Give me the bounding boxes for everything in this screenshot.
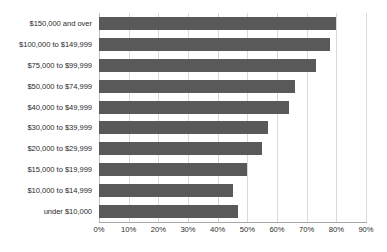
category-label: $40,000 to $49,999 xyxy=(27,103,92,112)
bar-row xyxy=(99,34,366,55)
value-tick-label: 0% xyxy=(94,224,105,235)
category-label: $10,000 to $14,999 xyxy=(27,186,92,195)
bar-row xyxy=(99,13,366,34)
bar xyxy=(99,101,289,114)
bar-row xyxy=(99,55,366,76)
bars-layer xyxy=(99,13,366,222)
category-label-cell: $75,000 to $99,999 xyxy=(0,55,96,76)
bar-row xyxy=(99,180,366,201)
bar-row xyxy=(99,76,366,97)
category-label: $50,000 to $74,999 xyxy=(27,82,92,91)
value-tick-label: 40% xyxy=(210,224,225,235)
bar xyxy=(99,121,268,134)
category-label-cell: $50,000 to $74,999 xyxy=(0,76,96,97)
value-tick-label: 30% xyxy=(180,224,195,235)
bar xyxy=(99,38,330,51)
bar xyxy=(99,163,247,176)
value-axis: 0%10%20%30%40%50%60%70%80%90% xyxy=(99,224,366,238)
value-tick-label: 20% xyxy=(151,224,166,235)
bar xyxy=(99,205,238,218)
category-label-cell: $40,000 to $49,999 xyxy=(0,97,96,118)
value-tick-label: 90% xyxy=(358,224,373,235)
category-label: $75,000 to $99,999 xyxy=(27,61,92,70)
plot-area xyxy=(99,13,366,222)
category-label: $100,000 to $149,999 xyxy=(19,40,92,49)
bar-row xyxy=(99,159,366,180)
category-label: under $10,000 xyxy=(44,207,92,216)
category-label-cell: $30,000 to $39,999 xyxy=(0,118,96,139)
value-tick-label: 10% xyxy=(121,224,136,235)
bar xyxy=(99,59,316,72)
category-label-cell: under $10,000 xyxy=(0,201,96,222)
value-tick-label: 80% xyxy=(329,224,344,235)
value-tick-label: 70% xyxy=(299,224,314,235)
category-label: $150,000 and over xyxy=(30,19,93,28)
category-label: $15,000 to $19,999 xyxy=(27,165,92,174)
category-label: $30,000 to $39,999 xyxy=(27,123,92,132)
category-label-cell: $150,000 and over xyxy=(0,13,96,34)
gridline xyxy=(366,13,367,222)
category-label-cell: $20,000 to $29,999 xyxy=(0,138,96,159)
value-tick-label: 60% xyxy=(269,224,284,235)
bar xyxy=(99,17,336,30)
category-label-cell: $100,000 to $149,999 xyxy=(0,34,96,55)
bar-row xyxy=(99,138,366,159)
bar xyxy=(99,184,233,197)
bar-row xyxy=(99,97,366,118)
value-tick-label: 50% xyxy=(240,224,255,235)
category-label-cell: $15,000 to $19,999 xyxy=(0,159,96,180)
axis-baseline xyxy=(99,222,367,223)
category-axis: $150,000 and over$100,000 to $149,999$75… xyxy=(0,13,96,222)
category-label-cell: $10,000 to $14,999 xyxy=(0,180,96,201)
category-label: $20,000 to $29,999 xyxy=(27,144,92,153)
bar-chart: $150,000 and over$100,000 to $149,999$75… xyxy=(0,0,387,252)
bar-row xyxy=(99,201,366,222)
bar xyxy=(99,80,295,93)
bar xyxy=(99,142,262,155)
bar-row xyxy=(99,118,366,139)
